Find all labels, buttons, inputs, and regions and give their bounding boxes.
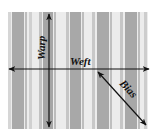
weft-label: Weft [70,55,92,67]
fabric-stripe [138,12,140,129]
fabric-stripe [82,12,84,129]
fabric-stripe [39,12,42,129]
fabric-stripe [43,12,53,129]
fabric-stripe [8,12,11,129]
fabric-stripe [120,12,123,129]
warp-label: Warp [35,35,47,60]
fabric-stripe [29,12,32,129]
fabric-stripe [12,12,24,129]
fabric-stripe [144,12,147,129]
fabric-stripe [70,12,81,129]
fabric-swatch [8,12,148,129]
fabric-stripe [97,12,109,129]
fabric-stripe [54,12,56,129]
fabric-stripe [125,12,137,129]
fabric-stripe [110,12,112,129]
diagram-svg: Warp Weft Bias [0,0,157,135]
fabric-stripe [66,12,69,129]
fabric-stripe [92,12,95,129]
fabric-stripe [25,12,27,129]
fabric-grain-diagram: Warp Weft Bias [0,0,157,135]
